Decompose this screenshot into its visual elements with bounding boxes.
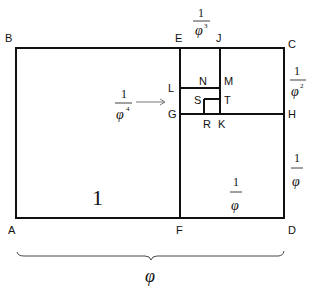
label-phi-width: φ [145, 266, 155, 286]
outer-rectangle [16, 48, 284, 218]
label-inv-phi-right-den: φ [292, 174, 300, 189]
point-H: H [288, 108, 296, 120]
label-inv-phi4-exp: 4 [126, 105, 130, 113]
point-K: K [218, 118, 226, 130]
label-inv-phi3-num: 1 [198, 6, 204, 20]
point-J: J [216, 32, 222, 44]
width-brace [17, 251, 284, 260]
point-G: G [168, 108, 177, 120]
point-M: M [224, 75, 233, 87]
label-inv-phi-den: φ [231, 198, 239, 213]
point-F: F [176, 224, 183, 236]
label-inv-phi4-num: 1 [121, 87, 127, 101]
label-inv-phi2-num: 1 [294, 64, 300, 78]
point-N: N [199, 75, 207, 87]
point-A: A [8, 224, 16, 236]
golden-rectangle-diagram: B E J C N M L S T G H R K A F D 1 1 φ 3 … [0, 0, 315, 295]
point-E: E [175, 32, 182, 44]
label-inv-phi4-den: φ [116, 107, 124, 122]
point-B: B [5, 32, 12, 44]
label-inv-phi2-exp: 2 [300, 82, 304, 90]
label-inv-phi-right-num: 1 [294, 151, 300, 165]
point-T: T [224, 94, 231, 106]
label-inv-phi3-den: φ [195, 23, 203, 38]
label-inv-phi2-den: φ [291, 84, 299, 99]
point-C: C [288, 38, 296, 50]
point-D: D [288, 224, 296, 236]
point-S: S [194, 94, 201, 106]
label-inv-phi3-exp: 3 [204, 22, 208, 30]
label-inv-phi-num: 1 [233, 175, 239, 189]
point-R: R [203, 118, 211, 130]
point-L: L [168, 82, 174, 94]
label-one: 1 [92, 185, 103, 210]
